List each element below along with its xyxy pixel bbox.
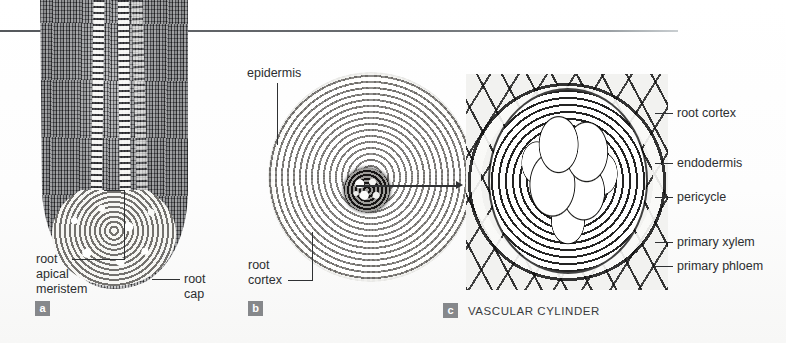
label-endodermis: endodermis xyxy=(677,156,742,171)
leader-line-root-apical-meristem-top xyxy=(104,190,125,191)
leader-line-root-cortex-c xyxy=(655,113,673,114)
label-root-apical-meristem-line1: root xyxy=(36,252,114,267)
label-primary-xylem: primary xylem xyxy=(677,235,755,250)
panel-a-micrograph xyxy=(34,0,194,294)
leader-line-primary-phloem xyxy=(655,266,673,267)
vascular-cylinder-detail xyxy=(490,90,646,272)
panel-c-micrograph xyxy=(466,74,668,290)
leader-line-root-cap xyxy=(152,279,180,280)
leader-line-primary-xylem xyxy=(655,242,673,243)
panel-badge-c: c xyxy=(443,303,458,318)
label-root-cap-line1: root xyxy=(184,272,234,287)
panel-badge-b: b xyxy=(248,301,263,316)
label-pericycle: pericycle xyxy=(677,190,726,205)
panel-badge-a: a xyxy=(35,301,50,316)
leader-line-epidermis xyxy=(277,83,278,145)
magnification-arrow-line xyxy=(356,185,457,187)
leader-line-pericycle xyxy=(655,197,673,198)
label-root-cortex-b: root cortex xyxy=(248,258,300,288)
magnification-arrow-head xyxy=(456,181,463,189)
label-root-cap: root cap xyxy=(184,272,234,302)
label-root-cortex-b-line1: root xyxy=(248,258,300,273)
root-anatomy-figure: root apical meristem root cap a epidermi… xyxy=(0,0,786,343)
label-epidermis: epidermis xyxy=(247,66,301,81)
label-root-cortex-c: root cortex xyxy=(677,106,736,121)
label-primary-phloem: primary phloem xyxy=(677,259,763,274)
label-root-apical-meristem-line3: meristem xyxy=(36,282,114,297)
panel-c-caption: VASCULAR CYLINDER xyxy=(468,305,600,317)
leader-line-root-apical-meristem-vertical xyxy=(124,190,125,260)
label-root-cortex-b-line2: cortex xyxy=(248,273,300,288)
panel-b-micrograph xyxy=(268,72,474,284)
label-root-apical-meristem: root apical meristem xyxy=(36,252,114,297)
stele-region xyxy=(344,168,390,212)
leader-line-root-cortex-b-vertical xyxy=(312,232,313,280)
leader-line-endodermis xyxy=(655,163,673,164)
label-root-cap-line2: cap xyxy=(184,287,234,302)
label-root-apical-meristem-line2: apical xyxy=(36,267,114,282)
